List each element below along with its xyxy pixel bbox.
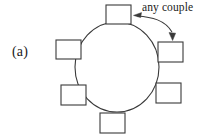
callout-arrowhead-left xyxy=(134,13,142,18)
annotation-any-couple: any couple xyxy=(142,1,193,13)
seat-upper-right xyxy=(158,42,183,62)
panel-label: (a) xyxy=(12,44,28,60)
seat-top xyxy=(106,5,131,24)
callout-arrowhead-down xyxy=(169,33,176,41)
figure-panel-a: (a) any couple xyxy=(0,0,202,140)
callout-curve xyxy=(137,16,172,32)
round-table-circle xyxy=(75,22,159,112)
seat-lower-left xyxy=(61,85,86,105)
diagram-canvas xyxy=(0,0,202,140)
seat-lower-right xyxy=(156,83,181,103)
seat-upper-left xyxy=(56,40,81,59)
seat-bottom xyxy=(100,113,125,133)
